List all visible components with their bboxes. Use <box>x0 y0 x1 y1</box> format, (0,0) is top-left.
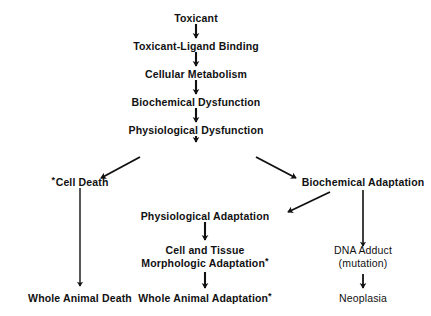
node-physiological-dysfunction: Physiological Dysfunction <box>128 124 263 137</box>
node-neoplasia: Neoplasia <box>339 292 387 305</box>
footnote-marker-icon: * <box>268 291 272 301</box>
node-biochemical-dysfunction: Biochemical Dysfunction <box>132 96 261 109</box>
edge-physio-dysfunction-to-cell-death <box>101 157 140 178</box>
node-dna-adduct-line1: DNA Adduct <box>334 244 392 256</box>
footnote-marker-icon: * <box>265 256 269 266</box>
node-morphologic-line2-text: Morphologic Adaptation <box>141 257 265 269</box>
node-cell-death: *Cell Death <box>51 176 108 189</box>
node-whole-animal-death: Whole Animal Death <box>28 292 132 305</box>
node-cell-tissue-morphologic-adaptation: Cell and Tissue Morphologic Adaptation* <box>141 244 268 269</box>
node-toxicant: Toxicant <box>174 12 218 25</box>
node-morphologic-line2: Morphologic Adaptation* <box>141 257 268 270</box>
node-whole-animal-adaptation-label: Whole Animal Adaptation <box>138 292 268 304</box>
flow-diagram: Toxicant Toxicant-Ligand Binding Cellula… <box>0 0 431 316</box>
edge-biochem-adaptation-to-physio-adaptation <box>288 192 330 212</box>
node-whole-animal-adaptation: Whole Animal Adaptation* <box>138 292 272 305</box>
node-dna-adduct-line2: (mutation) <box>334 257 392 270</box>
node-physiological-adaptation: Physiological Adaptation <box>141 210 270 223</box>
node-biochemical-adaptation: Biochemical Adaptation <box>302 176 425 189</box>
node-dna-adduct: DNA Adduct (mutation) <box>334 244 392 269</box>
edge-physio-dysfunction-to-biochem-adaptation <box>256 157 296 178</box>
node-morphologic-line1: Cell and Tissue <box>165 244 244 256</box>
node-cellular-metabolism: Cellular Metabolism <box>145 68 247 81</box>
node-cell-death-label: Cell Death <box>56 176 109 188</box>
node-toxicant-ligand-binding: Toxicant-Ligand Binding <box>133 40 259 53</box>
